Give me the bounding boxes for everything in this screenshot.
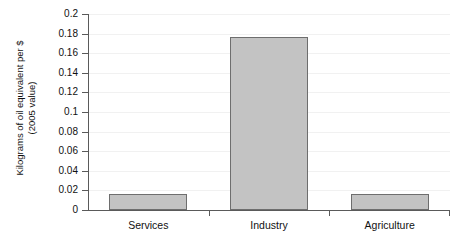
- y-tick-label: 0.16: [59, 48, 78, 58]
- x-tick-mark: [329, 211, 330, 216]
- x-axis-label-industry: Industry: [209, 219, 330, 231]
- y-tick-label: 0.18: [59, 29, 78, 39]
- y-tick-mark: [82, 34, 88, 35]
- gridline: [88, 34, 450, 35]
- bar-services: [109, 194, 187, 210]
- x-tick-mark-end: [449, 211, 450, 216]
- y-tick-mark: [82, 73, 88, 74]
- y-tick-label: 0.1: [64, 107, 78, 117]
- y-tick-label: 0.2: [64, 9, 78, 19]
- y-tick-label: 0.12: [59, 87, 78, 97]
- bar-chart: Kilograms of oil equivalent per $ (2005 …: [0, 0, 454, 245]
- plot-area: [88, 14, 450, 210]
- y-tick-mark: [82, 171, 88, 172]
- y-axis-line: [88, 14, 89, 211]
- y-tick-label: 0.08: [59, 127, 78, 137]
- y-tick-label: 0: [72, 205, 78, 215]
- y-tick-mark: [82, 53, 88, 54]
- y-tick-mark: [82, 132, 88, 133]
- y-tick-mark: [82, 112, 88, 113]
- y-tick-mark: [82, 92, 88, 93]
- y-tick-label: 0.02: [59, 185, 78, 195]
- x-axis-line: [88, 210, 450, 211]
- y-tick-mark: [82, 210, 88, 211]
- x-axis-label-services: Services: [88, 219, 209, 231]
- y-tick-label: 0.06: [59, 146, 78, 156]
- y-tick-label: 0.04: [59, 166, 78, 176]
- x-axis-label-agriculture: Agriculture: [329, 219, 450, 231]
- y-tick-label: 0.14: [59, 68, 78, 78]
- y-axis-title-line-1: Kilograms of oil equivalent per $: [14, 40, 26, 175]
- x-tick-mark: [209, 211, 210, 216]
- gridline: [88, 14, 450, 15]
- y-axis-title: Kilograms of oil equivalent per $ (2005 …: [0, 0, 52, 215]
- y-tick-mark: [82, 190, 88, 191]
- y-axis-title-line-2: (2005 value): [26, 40, 38, 175]
- bar-agriculture: [351, 194, 429, 210]
- y-tick-mark: [82, 14, 88, 15]
- bar-industry: [230, 37, 308, 210]
- y-tick-mark: [82, 151, 88, 152]
